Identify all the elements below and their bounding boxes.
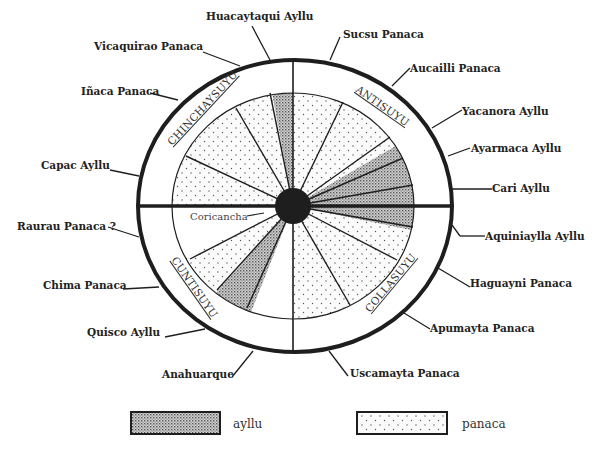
coricancha-label: Coricancha — [190, 211, 248, 222]
coricancha-leader — [247, 213, 264, 216]
legend-swatch-panaca — [357, 412, 447, 434]
label-huacaytaqui-ayllu: Huacaytaqui Ayllu — [206, 10, 314, 22]
label-aucailli-panaca: Aucailli Panaca — [409, 62, 501, 74]
label-capac-ayllu: Capac Ayllu — [41, 159, 110, 171]
label-anahuarque: Anahuarque — [161, 368, 234, 380]
label-haguayni-panaca: Haguayni Panaca — [470, 277, 572, 289]
label-yacanora-ayllu: Yacanora Ayllu — [461, 105, 549, 117]
label-aquiniaylla-ayllu: Aquiniaylla Ayllu — [484, 230, 585, 242]
label-apumayta-panaca: Apumayta Panaca — [429, 322, 535, 334]
label-cari-ayllu: Cari Ayllu — [492, 182, 550, 194]
cusco-division-diagram: Coricancha CHINCHAYSUYU ANTISUYU COLLASU… — [0, 0, 592, 463]
label-inaca-panaca: Iñaca Panaca — [81, 85, 159, 97]
label-quisco-ayllu: Quisco Ayllu — [87, 326, 161, 339]
label-ayarmaca-ayllu: Ayarmaca Ayllu — [470, 142, 562, 154]
legend-item-ayllu: ayllu — [131, 412, 263, 434]
legend-swatch-ayllu — [131, 412, 220, 434]
diagram-canvas: Coricancha CHINCHAYSUYU ANTISUYU COLLASU… — [0, 0, 592, 463]
label-chima-panaca: Chima Panaca — [43, 279, 127, 291]
label-raurau-panaca: Raurau Panaca ? — [17, 220, 116, 232]
legend-label-panaca: panaca — [462, 417, 506, 431]
legend: ayllu panaca — [131, 412, 506, 434]
wedge-collasuyu-panaca — [293, 206, 440, 340]
legend-item-panaca: panaca — [357, 412, 506, 434]
label-vicaquirao-panaca: Vicaquirao Panaca — [93, 40, 203, 52]
label-sucsu-panaca: Sucsu Panaca — [343, 28, 424, 40]
legend-label-ayllu: ayllu — [233, 417, 263, 431]
label-uscamayta-panaca: Uscamayta Panaca — [350, 367, 460, 379]
coricancha-marker — [275, 188, 311, 224]
